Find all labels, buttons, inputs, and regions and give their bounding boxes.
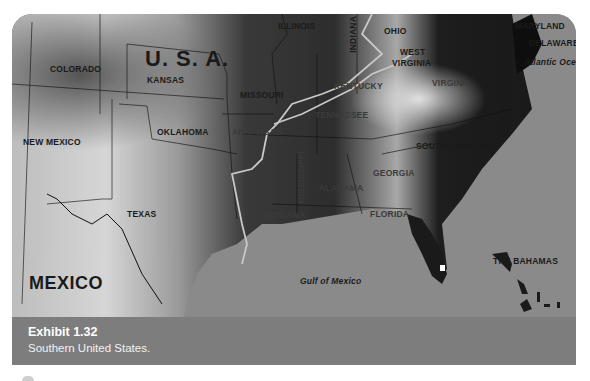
map-panel: COLORADO U. S. A. KANSAS NEW MEXICO OKLA… <box>12 14 576 317</box>
label-florida: FLORIDA <box>370 209 409 219</box>
caption-title: Exhibit 1.32 <box>28 325 97 339</box>
label-missouri: MISSOURI <box>240 90 284 100</box>
label-bahamas: THE BAHAMAS <box>493 256 558 266</box>
page-corner-mark <box>22 376 34 381</box>
label-south-carolina: SOUTH CAROLINA <box>416 141 496 151</box>
label-ohio: OHIO <box>384 26 407 36</box>
label-atlantic-ocean: Atlantic Ocean <box>524 57 576 67</box>
label-delaware: DELAWARE <box>529 38 576 48</box>
label-colorado: COLORADO <box>50 64 101 74</box>
label-louisiana: LOUISIANA <box>257 210 306 220</box>
label-oklahoma: OKLAHOMA <box>157 127 209 137</box>
label-virginia: VIRGINIA <box>432 78 471 88</box>
label-usa: U. S. A. <box>145 46 229 72</box>
label-illinois: ILLINOIS <box>278 21 316 31</box>
caption-subtitle: Southern United States. <box>28 342 150 354</box>
label-new-mexico: NEW MEXICO <box>23 137 81 147</box>
label-tennessee: TENNESSEE <box>315 110 368 120</box>
label-indiana: INDIANA <box>348 16 358 53</box>
label-georgia: GEORGIA <box>373 168 415 178</box>
label-maryland: MARYLAND <box>515 21 565 31</box>
label-west-virginia-line1: WEST <box>400 47 425 57</box>
label-arkansas: ARKANSAS <box>232 127 282 137</box>
label-texas: TEXAS <box>127 209 156 219</box>
label-alabama: ALABAMA <box>319 183 363 193</box>
label-west-virginia-line2: VIRGINIA <box>392 58 431 68</box>
label-gulf-of-mexico: Gulf of Mexico <box>300 276 361 286</box>
label-kansas: KANSAS <box>147 75 184 85</box>
label-mexico: MEXICO <box>29 273 103 294</box>
relief-map <box>12 14 576 317</box>
label-mississippi: MISSISSIPPI <box>296 151 306 204</box>
label-kentucky: KENTUCKY <box>334 81 383 91</box>
